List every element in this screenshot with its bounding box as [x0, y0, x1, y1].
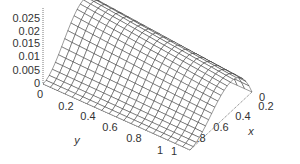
x-tick-label: 0.2 — [258, 100, 273, 112]
z-tick-label: 0.02 — [19, 25, 40, 37]
z-tick-label: 0.005 — [12, 64, 40, 76]
y-tick-label: 0.2 — [58, 100, 73, 112]
y-tick-label: 1 — [157, 144, 163, 156]
z-axis: 0.025 0.02 0.015 0.01 0.005 0 — [12, 8, 43, 89]
x-tick-label: 0.6 — [213, 121, 228, 133]
y-tick-label: 0.6 — [102, 121, 117, 133]
surface-plot: 0.025 0.02 0.015 0.01 0.005 0 0 0.2 0.4 … — [0, 0, 300, 164]
z-tick-label: 0.01 — [19, 50, 40, 62]
z-tick-label: 0.015 — [12, 37, 40, 49]
z-tick-label: 0.025 — [12, 12, 40, 24]
x-tick-label: 1 — [171, 145, 177, 157]
y-tick-label: 0.8 — [126, 132, 141, 144]
y-axis-label: y — [73, 134, 81, 146]
x-tick-label: 0.4 — [235, 110, 250, 122]
y-tick-label: 0.4 — [80, 110, 95, 122]
y-tick-label: 0 — [37, 88, 43, 100]
x-axis-label: x — [247, 125, 254, 137]
